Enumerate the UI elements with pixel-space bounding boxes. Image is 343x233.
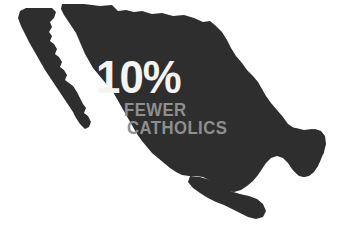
mexico-map-silhouette: [0, 0, 343, 233]
mexico-mainland: [61, 4, 326, 192]
map-shapes: [18, 4, 326, 219]
mexico-catholics-infographic: 10% FEWER CATHOLICS: [0, 0, 343, 233]
